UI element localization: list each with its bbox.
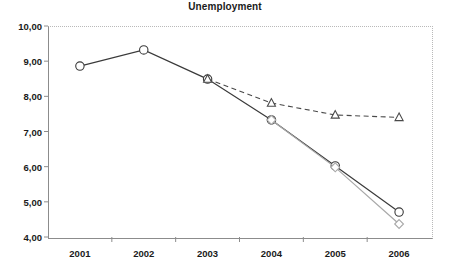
unemployment-chart: Unemployment 4,005,006,007,008,009,0010,… [0, 0, 450, 271]
series-layer [0, 0, 450, 271]
data-point-triangle [267, 99, 275, 107]
data-point-circle [395, 208, 403, 216]
data-point-triangle [395, 113, 403, 121]
data-point-circle [140, 46, 148, 54]
series-line-actual [80, 50, 399, 212]
data-point-circle [76, 62, 84, 70]
series-line-forecast-dashed [208, 79, 400, 117]
